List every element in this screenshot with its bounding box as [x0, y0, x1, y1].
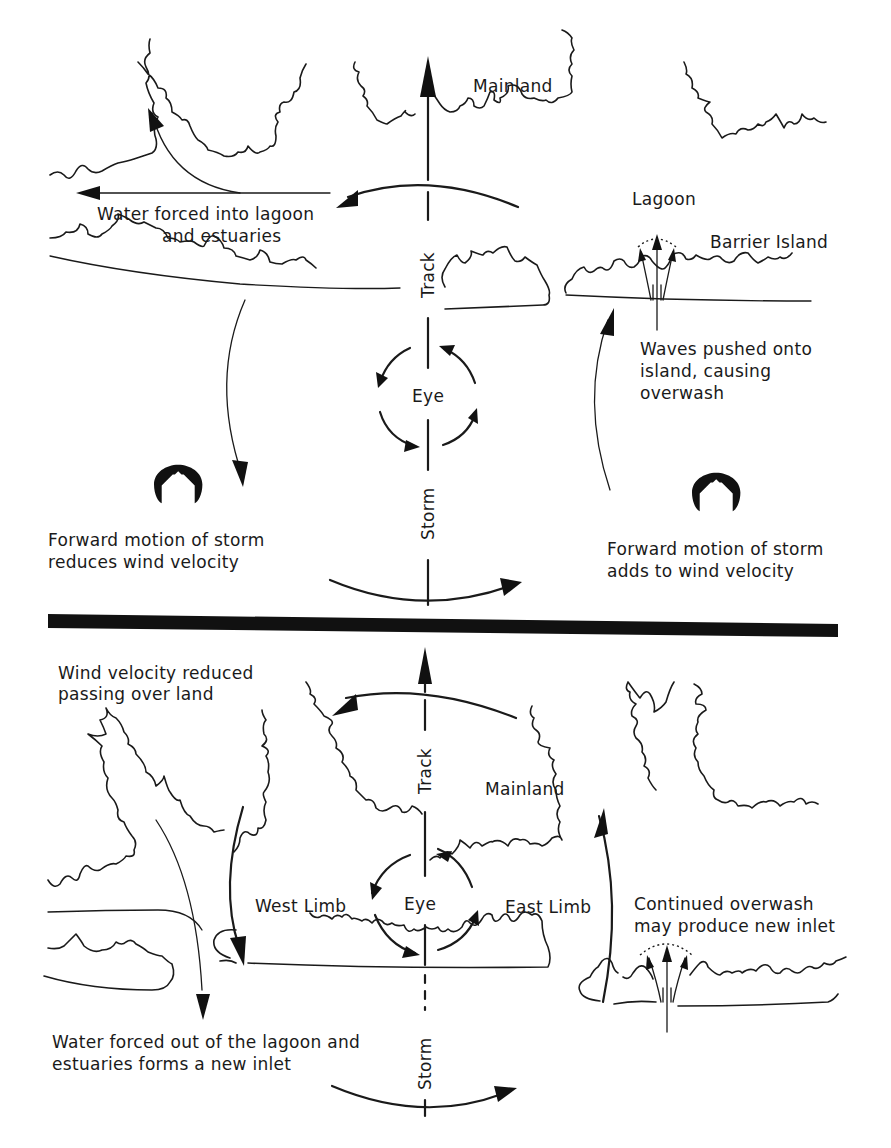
water-into-estuary-arrow — [152, 113, 240, 193]
right-motion-label-2: adds to wind velocity — [607, 561, 794, 581]
storm-label-bottom: Storm — [415, 1037, 435, 1090]
track-label-bottom: Track — [415, 748, 435, 795]
lagoon-label: Lagoon — [632, 189, 696, 209]
eye-label-top: Eye — [412, 386, 444, 406]
overwash-arrows-top — [638, 234, 676, 330]
house-arch-icon — [154, 465, 202, 504]
estuary-flow-left — [156, 820, 202, 990]
barrier-island-label: Barrier Island — [710, 232, 828, 252]
mainland-coast-left — [50, 39, 306, 178]
circulation-arrow-bottom-left — [230, 807, 243, 947]
mainland-label-top: Mainland — [473, 76, 553, 96]
waves-label-3: overwash — [640, 383, 724, 403]
barrier-island-right — [565, 253, 792, 293]
water-out-label-2: estuaries forms a new inlet — [52, 1054, 291, 1074]
wind-reduced-label-1: Wind velocity reduced — [58, 663, 254, 683]
track-label-top: Track — [418, 252, 438, 299]
water-forced-label-2: and estuaries — [162, 226, 282, 246]
mainland-coast-right — [684, 62, 826, 138]
arrowhead — [418, 647, 432, 684]
circulation-arrow-bottom-upper — [346, 693, 516, 718]
storm-label-top: Storm — [418, 487, 438, 540]
left-motion-label-2: reduces wind velocity — [48, 552, 239, 572]
barrier-island-center-bottom — [214, 912, 550, 968]
circulation-arrow-top-left — [227, 300, 245, 475]
mainland-label-bottom: Mainland — [485, 779, 565, 799]
right-motion-label-1: Forward motion of storm — [607, 539, 824, 559]
left-motion-label-1: Forward motion of storm — [48, 530, 265, 550]
arrowhead — [336, 190, 358, 208]
barrier-island-right-bottom — [579, 957, 846, 1006]
east-limb-label: East Limb — [505, 897, 591, 917]
hurricane-landfall-diagram: Track Storm Eye — [0, 0, 891, 1148]
lagoon-shore-left — [48, 910, 202, 930]
circulation-arrow-top-right — [594, 320, 610, 490]
barrier-island-left-shore — [50, 256, 400, 289]
water-out-label-1: Water forced out of the lagoon and — [52, 1032, 360, 1052]
continued-overwash-label-1: Continued overwash — [634, 894, 814, 914]
wind-reduced-label-2: passing over land — [58, 684, 214, 704]
eye-label-bottom: Eye — [404, 894, 436, 914]
barrier-island-left-bottom — [44, 934, 174, 990]
water-forced-label-1: Water forced into lagoon — [97, 204, 314, 224]
bottom-panel: Track Storm Eye Wind velocity reduced pa… — [44, 647, 846, 1116]
circulation-arrow-top-bottom — [330, 580, 510, 601]
west-limb-label: West Limb — [255, 896, 346, 916]
black-divider-bar — [48, 614, 838, 637]
circulation-arrow-top-upper — [348, 185, 518, 207]
top-panel: Track Storm Eye — [48, 30, 828, 605]
waves-label-1: Waves pushed onto — [640, 339, 812, 359]
house-arch-icon — [692, 473, 740, 512]
waves-label-2: island, causing — [640, 361, 771, 381]
mainland-coast-left-bottom — [48, 708, 269, 886]
mainland-coast-right-bottom — [626, 682, 818, 808]
continued-overwash-label-2: may produce new inlet — [634, 916, 835, 936]
barrier-island-center — [442, 247, 550, 309]
circulation-arrow-bottom-right — [599, 816, 612, 1002]
barrier-island-right-shore — [566, 295, 811, 301]
overwash-arrows-bottom — [640, 944, 692, 1032]
